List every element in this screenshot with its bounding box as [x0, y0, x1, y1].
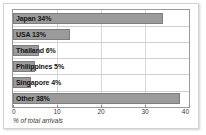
bar-row: USA 13%: [13, 26, 189, 42]
bar-row: Thailand 6%: [13, 42, 189, 58]
bar-row: Japan 34%: [13, 10, 189, 26]
bar-label-other: Other 38%: [16, 92, 50, 105]
bar-label-japan: Japan 34%: [16, 12, 51, 25]
x-tick-mark-40: [189, 105, 190, 108]
bars-layer: Japan 34%USA 13%Thailand 6%Philippines 5…: [13, 10, 189, 107]
x-tick-label-30: 30: [141, 108, 148, 115]
x-tick-label-10: 10: [53, 108, 60, 115]
x-tick-label-0: 0: [12, 108, 16, 115]
plot-area: Japan 34%USA 13%Thailand 6%Philippines 5…: [12, 9, 190, 108]
bar-label-thailand: Thailand 6%: [16, 44, 56, 57]
x-tick-label-40: 40: [182, 108, 189, 115]
x-tick-label-20: 20: [97, 108, 104, 115]
bar-label-singapore: Singapore 4%: [16, 76, 61, 89]
chart-card: Japan 34%USA 13%Thailand 6%Philippines 5…: [3, 3, 199, 129]
bar-label-usa: USA 13%: [16, 28, 46, 41]
bar-row: Singapore 4%: [13, 75, 189, 91]
bar-label-philippines: Philippines 5%: [16, 60, 64, 73]
bar-row: Philippines 5%: [13, 59, 189, 75]
x-axis-title: % of total arrivals: [13, 117, 63, 124]
